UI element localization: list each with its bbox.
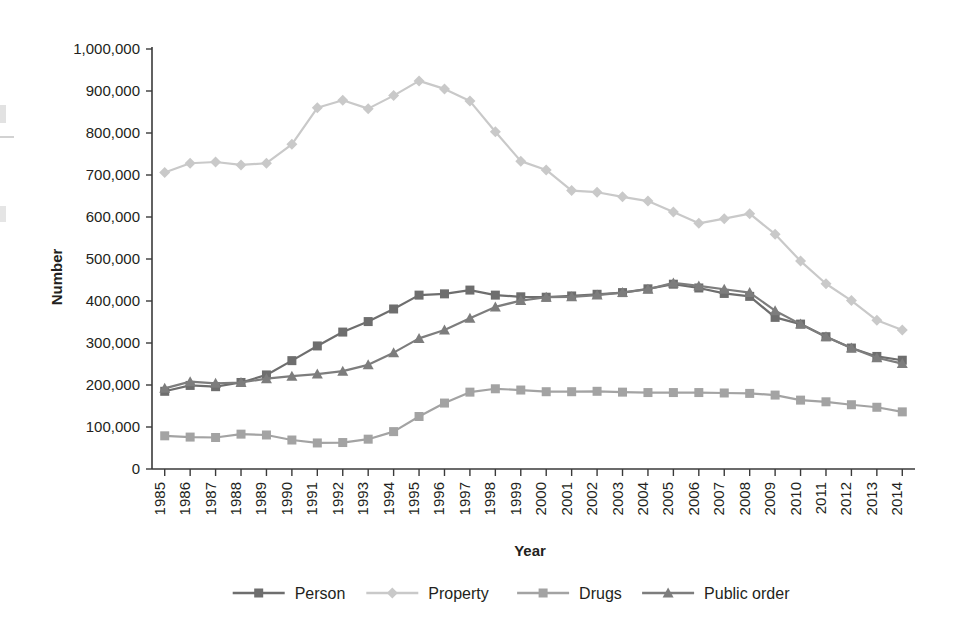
x-tick-label: 1985 — [151, 482, 168, 515]
legend-item-public-order[interactable]: Public order — [642, 585, 790, 602]
x-tick-label: 2007 — [710, 482, 727, 515]
data-point-marker — [211, 433, 220, 442]
series-line — [165, 81, 903, 330]
x-tick-label: 2004 — [634, 482, 651, 515]
data-point-marker — [796, 396, 805, 405]
x-tick-label: 1988 — [227, 482, 244, 515]
data-point-marker — [592, 187, 603, 198]
x-tick-label: 2011 — [812, 482, 829, 514]
x-tick-label: 1986 — [176, 482, 193, 515]
x-tick-label: 2005 — [659, 482, 676, 515]
x-tick-label: 1992 — [329, 482, 346, 515]
legend-item-drugs[interactable]: Drugs — [517, 585, 622, 602]
series-line — [165, 284, 903, 391]
series-public-order — [159, 277, 908, 392]
x-tick-label: 1993 — [354, 482, 371, 515]
data-point-marker — [415, 291, 424, 300]
scan-edge-artifact-bottom — [0, 206, 6, 222]
data-point-marker — [872, 403, 881, 412]
data-point-marker — [897, 324, 908, 335]
data-point-marker — [618, 388, 627, 397]
data-point-marker — [491, 291, 500, 300]
data-point-marker — [186, 433, 195, 442]
x-tick-label: 2014 — [888, 482, 905, 515]
legend-label: Drugs — [579, 585, 622, 602]
legend-label: Property — [428, 585, 488, 602]
legend-item-person[interactable]: Person — [233, 585, 346, 602]
data-point-marker — [254, 589, 263, 598]
y-tick-label: 800,000 — [86, 124, 140, 141]
data-point-marker — [185, 158, 196, 169]
data-point-marker — [642, 196, 653, 207]
scan-edge-artifact-mid — [0, 136, 14, 138]
x-tick-label: 2006 — [685, 482, 702, 515]
data-point-marker — [668, 206, 679, 217]
data-point-marker — [287, 436, 296, 445]
series-line — [165, 389, 903, 443]
legend-label: Public order — [704, 585, 790, 602]
x-tick-label: 1987 — [202, 482, 219, 515]
data-point-marker — [491, 384, 500, 393]
data-point-marker — [719, 213, 730, 224]
data-point-marker — [539, 589, 548, 598]
x-tick-label: 1990 — [278, 482, 295, 515]
x-tick-label: 1997 — [456, 482, 473, 515]
x-tick-label: 2009 — [761, 482, 778, 515]
data-point-marker — [210, 156, 221, 167]
data-point-marker — [236, 159, 247, 170]
data-point-marker — [440, 399, 449, 408]
data-point-marker — [262, 430, 271, 439]
data-point-marker — [364, 317, 373, 326]
data-point-marker — [567, 387, 576, 396]
data-point-marker — [414, 75, 425, 86]
chart-series-group — [159, 75, 908, 447]
data-point-marker — [439, 324, 450, 334]
data-point-marker — [388, 90, 399, 101]
data-point-marker — [387, 588, 398, 599]
data-point-marker — [593, 387, 602, 396]
x-tick-label: 2001 — [558, 482, 575, 515]
y-tick-label: 200,000 — [86, 376, 140, 393]
line-chart: 0100,000200,000300,000400,000500,000600,… — [0, 0, 953, 632]
data-point-marker — [669, 388, 678, 397]
x-tick-label: 1995 — [405, 482, 422, 515]
data-point-marker — [313, 341, 322, 350]
x-tick-label: 2012 — [837, 482, 854, 515]
data-point-marker — [542, 387, 551, 396]
y-axis: 0100,000200,000300,000400,000500,000600,… — [73, 40, 152, 477]
data-point-marker — [338, 328, 347, 337]
x-axis: 1985198619871988198919901991199219931994… — [151, 469, 915, 515]
data-point-marker — [389, 427, 398, 436]
chart-legend: PersonPropertyDrugsPublic order — [233, 585, 790, 602]
scan-edge-artifact-top — [0, 105, 6, 123]
chart-container: 0100,000200,000300,000400,000500,000600,… — [0, 0, 953, 632]
data-point-marker — [363, 359, 374, 369]
series-drugs — [160, 384, 907, 447]
y-tick-label: 400,000 — [86, 292, 140, 309]
data-point-marker — [363, 103, 374, 114]
x-axis-title: Year — [514, 542, 546, 559]
y-tick-label: 700,000 — [86, 166, 140, 183]
x-tick-label: 1998 — [481, 482, 498, 515]
x-tick-label: 2010 — [787, 482, 804, 515]
data-point-marker — [617, 191, 628, 202]
data-point-marker — [771, 391, 780, 400]
data-point-marker — [465, 388, 474, 397]
x-tick-label: 2002 — [583, 482, 600, 515]
data-point-marker — [237, 430, 246, 439]
y-tick-label: 0 — [132, 460, 140, 477]
x-tick-label: 2000 — [532, 482, 549, 515]
data-point-marker — [643, 388, 652, 397]
data-point-marker — [389, 304, 398, 313]
series-line — [165, 283, 903, 388]
data-point-marker — [465, 286, 474, 295]
y-tick-label: 600,000 — [86, 208, 140, 225]
y-tick-label: 300,000 — [86, 334, 140, 351]
y-tick-label: 100,000 — [86, 418, 140, 435]
x-tick-label: 2003 — [609, 482, 626, 515]
legend-item-property[interactable]: Property — [366, 585, 488, 602]
data-point-marker — [439, 83, 450, 94]
x-tick-label: 1994 — [380, 482, 397, 515]
data-point-marker — [745, 389, 754, 398]
x-tick-label: 1991 — [303, 482, 320, 515]
